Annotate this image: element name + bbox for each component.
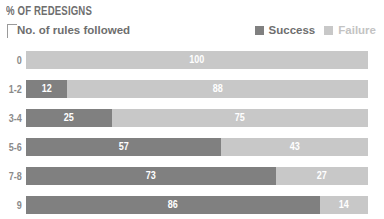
bar-value-failure: 88 (212, 83, 222, 94)
bar-segment-success[interactable]: 25 (26, 109, 112, 127)
bar-value-success: 12 (41, 83, 51, 94)
table-row: 1-2 12 88 (0, 74, 384, 103)
bar-segment-failure[interactable]: 88 (67, 80, 368, 98)
bar-segment-failure[interactable]: 43 (221, 138, 368, 156)
legend-swatch-success-icon (255, 26, 264, 35)
stacked-bar: 12 88 (26, 80, 368, 98)
table-row: 3-4 25 75 (0, 103, 384, 132)
stacked-bar: 86 14 (26, 196, 368, 214)
legend-item-failure[interactable]: Failure (324, 24, 376, 36)
row-label: 5-6 (4, 141, 26, 153)
y-axis-label: No. of rules followed (17, 24, 130, 36)
bar-value-failure: 75 (235, 112, 245, 123)
chart-page: % OF REDESIGNS No. of rules followed Suc… (0, 0, 384, 219)
row-label: 1-2 (4, 83, 26, 95)
bar-segment-success[interactable]: 12 (26, 80, 67, 98)
chart-subheader: No. of rules followed Success Failure (0, 23, 384, 41)
bar-value-failure: 100 (189, 54, 204, 65)
bar-segment-failure[interactable]: 100 (26, 51, 368, 69)
table-row: 0 100 (0, 45, 384, 74)
bar-segment-success[interactable]: 86 (26, 196, 320, 214)
legend-item-success[interactable]: Success (255, 24, 316, 36)
stacked-bar: 73 27 (26, 167, 368, 185)
row-label: 9 (4, 199, 26, 211)
bar-segment-success[interactable]: 73 (26, 167, 276, 185)
bar-value-success: 86 (168, 199, 178, 210)
legend: Success Failure (255, 24, 376, 36)
row-label: 3-4 (4, 112, 26, 124)
stacked-bar: 25 75 (26, 109, 368, 127)
axis-corner-bracket-icon (7, 24, 17, 38)
table-row: 5-6 57 43 (0, 132, 384, 161)
table-row: 9 86 14 (0, 190, 384, 219)
bar-value-success: 73 (146, 170, 156, 181)
stacked-bar: 57 43 (26, 138, 368, 156)
bar-segment-failure[interactable]: 27 (276, 167, 368, 185)
row-label: 7-8 (4, 170, 26, 182)
bar-segment-failure[interactable]: 14 (320, 196, 368, 214)
legend-label-success: Success (269, 24, 316, 36)
page-title: % OF REDESIGNS (6, 4, 92, 18)
bar-value-success: 25 (64, 112, 74, 123)
bar-segment-success[interactable]: 57 (26, 138, 221, 156)
bar-value-failure: 14 (339, 199, 349, 210)
chart-plot-area: 0 100 1-2 12 88 3-4 (0, 45, 384, 219)
legend-label-failure: Failure (338, 24, 376, 36)
legend-swatch-failure-icon (324, 26, 333, 35)
bar-value-failure: 43 (289, 141, 299, 152)
row-label: 0 (4, 54, 26, 66)
bar-value-failure: 27 (317, 170, 327, 181)
table-row: 7-8 73 27 (0, 161, 384, 190)
bar-value-success: 57 (118, 141, 128, 152)
bar-segment-failure[interactable]: 75 (112, 109, 369, 127)
stacked-bar: 100 (26, 51, 368, 69)
